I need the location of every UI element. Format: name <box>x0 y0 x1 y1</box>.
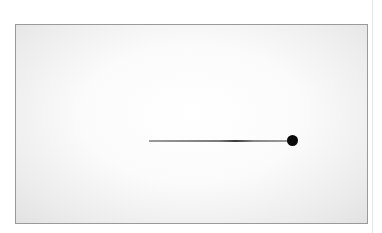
right-edge-divider <box>372 0 373 233</box>
photo-frame <box>15 24 368 224</box>
horizontal-line <box>149 140 289 142</box>
black-dot <box>287 135 298 146</box>
